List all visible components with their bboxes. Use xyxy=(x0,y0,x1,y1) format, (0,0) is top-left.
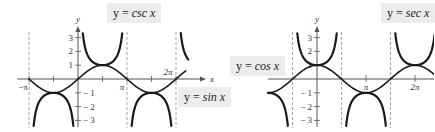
x-tick-label-pi: π xyxy=(120,82,125,92)
y-tick-label: − 1 xyxy=(300,88,312,98)
curve-csc xyxy=(181,33,188,59)
y-tick-label: 2 xyxy=(308,46,313,56)
label-sec-lhs: y = xyxy=(387,6,403,20)
label-csc: y = csc x xyxy=(107,3,161,23)
y-tick-label: − 2 xyxy=(83,102,95,112)
y-tick-label: 3 xyxy=(308,33,313,43)
y-axis-arrow-icon xyxy=(76,26,81,32)
y-tick-label: − 1 xyxy=(83,88,95,98)
y-axis-label: y xyxy=(314,14,319,24)
y-tick-label: 3 xyxy=(69,33,74,43)
x-tick-label-2pi: 2π xyxy=(410,82,420,92)
curve-csc xyxy=(83,33,122,65)
y-tick-label: 2 xyxy=(69,46,74,56)
curve-sec xyxy=(346,93,386,126)
label-sec-rhs: sec x xyxy=(406,6,430,20)
y-axis-arrow-icon xyxy=(315,26,320,32)
label-sec: y = sec x xyxy=(381,3,435,23)
x-tick-label-neg-pi: −π xyxy=(18,82,28,92)
label-sin-lhs: y = xyxy=(184,90,200,104)
x-axis-arrow-icon xyxy=(200,77,206,82)
x-tick-label-2pi: 2π xyxy=(163,67,173,77)
label-cos-rhs: cos x xyxy=(255,59,279,73)
y-axis-label: y xyxy=(75,14,80,24)
graph-sec-cos: yπ2π321− 1− 2− 3 xyxy=(268,14,434,128)
y-tick-label: − 2 xyxy=(300,102,312,112)
label-sin-rhs: sin x xyxy=(203,90,225,104)
label-cos-lhs: y = xyxy=(236,59,252,73)
y-tick-label: − 3 xyxy=(83,115,95,125)
label-csc-rhs: csc x xyxy=(132,6,156,20)
y-tick-label: 1 xyxy=(69,60,74,70)
label-cos: y = cos x xyxy=(230,56,285,76)
graph-csc-sin: xy−ππ2π321− 1− 2− 3 xyxy=(17,14,214,128)
y-tick-label: − 3 xyxy=(300,115,312,125)
curve-sec xyxy=(395,33,434,65)
x-axis-label: x xyxy=(209,74,214,84)
label-csc-lhs: y = xyxy=(113,6,129,20)
x-tick-label-pi: π xyxy=(364,82,369,92)
curve-csc xyxy=(34,93,74,126)
curve-csc xyxy=(132,93,172,126)
curve-sec xyxy=(268,93,288,126)
label-sin: y = sin x xyxy=(178,87,231,107)
